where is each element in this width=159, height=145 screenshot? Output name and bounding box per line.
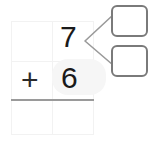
decompose-box-bottom[interactable] (111, 45, 148, 77)
plus-operator: + (21, 65, 39, 95)
grid-line-left (11, 21, 12, 135)
grid-line-bottom (11, 134, 94, 135)
grid-line-top (11, 21, 94, 22)
answer-rule-line (11, 99, 94, 101)
addend-first-ones-digit: 7 (60, 22, 77, 52)
addend-second-ones-digit: 6 (61, 63, 78, 93)
decompose-box-top[interactable] (111, 5, 148, 37)
worksheet-canvas: 7 + 6 (0, 0, 159, 145)
